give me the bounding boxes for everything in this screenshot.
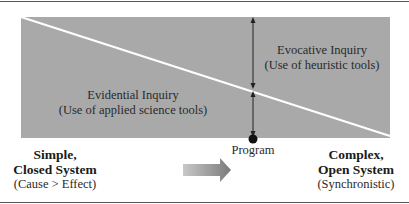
evidential-title: Evidential Inquiry: [58, 88, 208, 103]
divider-line: [21, 17, 390, 136]
left-pole-note: (Cause > Effect): [10, 177, 100, 192]
right-pole: Complex, Open System (Synchronistic): [306, 147, 406, 192]
evidential-subtitle: (Use of applied science tools): [58, 103, 208, 118]
left-pole-line2: Closed System: [10, 162, 100, 177]
right-pole-line1: Complex,: [306, 147, 406, 162]
evocative-inquiry-label: Evocative Inquiry (Use of heuristic tool…: [262, 43, 382, 73]
right-pole-line2: Open System: [306, 162, 406, 177]
evidential-inquiry-label: Evidential Inquiry (Use of applied scien…: [58, 88, 208, 118]
double-arrow-upper-icon: [251, 17, 256, 89]
bottom-rule: [0, 202, 409, 203]
right-arrow-icon: [183, 158, 231, 182]
double-arrow-lower-icon: [251, 91, 256, 137]
evocative-title: Evocative Inquiry: [262, 43, 382, 58]
left-pole-line1: Simple,: [10, 147, 100, 162]
left-pole: Simple, Closed System (Cause > Effect): [10, 147, 100, 192]
program-label: Program: [223, 143, 283, 158]
right-pole-note: (Synchronistic): [306, 177, 406, 192]
evocative-subtitle: (Use of heuristic tools): [262, 58, 382, 73]
